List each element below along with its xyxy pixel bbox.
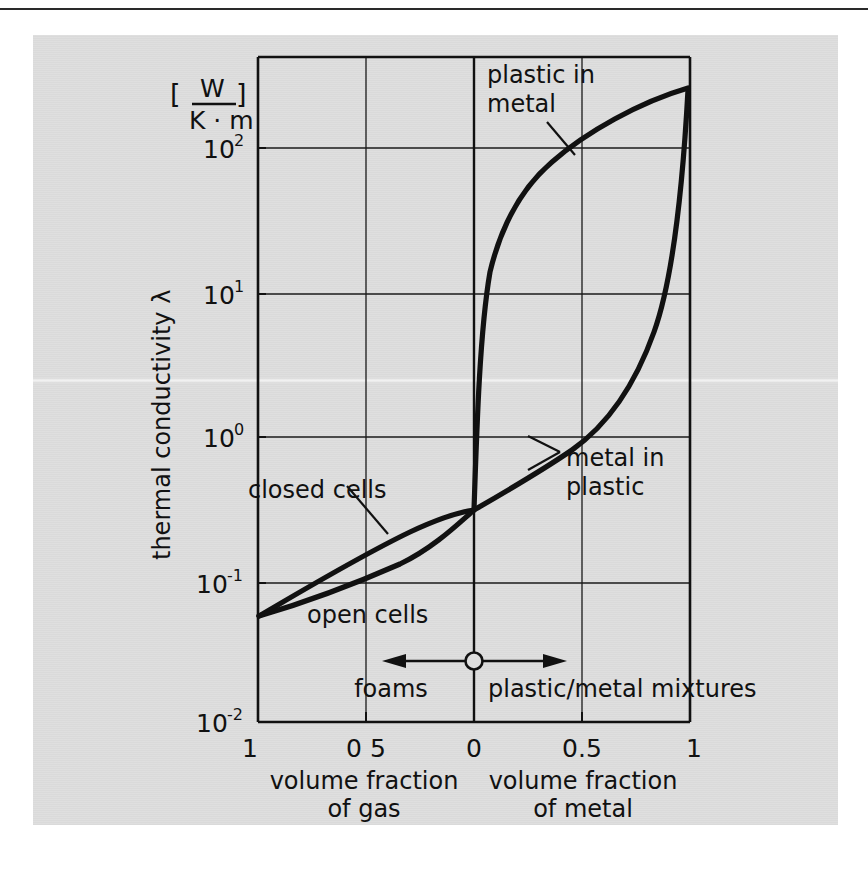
annotation-plastic-in-metal: plastic in metal [487,61,595,118]
annotation-metal-in-plastic-line1: metal in [566,444,664,472]
chart-canvas: [ W K · m ] 10 2 10 1 10 0 10 -1 10 -2 t… [0,0,868,872]
x-ticklabel-metal-1: 1 [686,734,702,763]
regime-divider-marker [382,653,567,670]
unit-bracket-open: [ [170,78,181,109]
y-ticklabel-1e2: 10 [203,135,235,164]
y-tickexp-1em2: -2 [227,705,243,724]
unit-numerator: W [200,74,225,103]
y-axis-ticklabels: 10 2 10 1 10 0 10 -1 10 -2 [196,131,244,738]
x-axis-title-left-line2: of gas [327,795,400,823]
arrow-right-head [543,654,567,668]
x-ticklabel-gas-1: 1 [242,734,258,763]
y-axis-title: thermal conductivity λ [148,290,176,560]
y-tickexp-1e2: 2 [234,131,244,150]
x-axis-title-right-line1: volume fraction [489,767,678,795]
arrow-left-head [382,654,406,668]
x-axis-title-right: volume fraction of metal [489,767,678,823]
y-tickexp-1e0: 0 [234,420,244,439]
y-ticklabel-1e0: 10 [203,424,235,453]
unit-bracket-close: ] [236,78,247,109]
annotation-closed-cells: closed cells [248,476,386,504]
x-ticklabel-metal-05: 0.5 [562,734,602,763]
x-axis-title-left-line1: volume fraction [270,767,459,795]
x-ticklabel-gas-05: 0 5 [346,734,386,763]
y-ticklabel-1e1: 10 [203,281,235,310]
annotation-metal-in-plastic: metal in plastic [566,444,664,501]
x-axis-ticks [366,712,582,722]
y-ticklabel-1em1: 10 [196,570,228,599]
x-axis-ticklabels: 1 0 5 0 0.5 1 [242,734,702,763]
x-ticklabel-zero: 0 [466,734,482,763]
figure-page: [ W K · m ] 10 2 10 1 10 0 10 -1 10 -2 t… [0,0,868,872]
regime-label-mixtures: plastic/metal mixtures [488,675,757,703]
y-tickexp-1e1: 1 [234,277,244,296]
y-tickexp-1em1: -1 [227,566,243,585]
regime-center-circle [466,653,483,670]
regime-label-foams: foams [354,675,428,703]
x-axis-title-right-line2: of metal [533,795,633,823]
annotation-open-cells: open cells [307,601,428,629]
annotation-plastic-in-metal-line2: metal [487,90,556,118]
y-axis-unit-label: [ W K · m ] [170,74,254,135]
y-ticklabel-1em2: 10 [196,709,228,738]
annotation-metal-in-plastic-line2: plastic [566,473,644,501]
annotation-plastic-in-metal-line1: plastic in [487,61,595,89]
x-axis-title-left: volume fraction of gas [270,767,459,823]
